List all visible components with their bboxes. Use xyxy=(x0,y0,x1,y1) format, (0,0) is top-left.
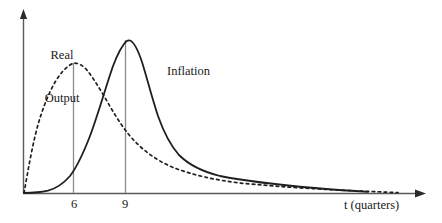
x-tick-label-6: 6 xyxy=(66,197,82,211)
x-axis-arrowhead xyxy=(415,190,426,198)
annotation-real-output-line2: Output xyxy=(33,91,91,105)
annotation-inflation: Inflation xyxy=(167,64,210,78)
x-tick-label-9: 9 xyxy=(117,197,133,211)
y-axis-arrowhead xyxy=(20,9,27,19)
annotation-real-output: Real Output xyxy=(33,19,91,134)
impulse-response-chart: Real Output Inflation 6 9 t (quarters) xyxy=(0,0,442,223)
annotation-real-output-line1: Real xyxy=(33,48,91,62)
x-axis-label: t (quarters) xyxy=(344,198,399,212)
